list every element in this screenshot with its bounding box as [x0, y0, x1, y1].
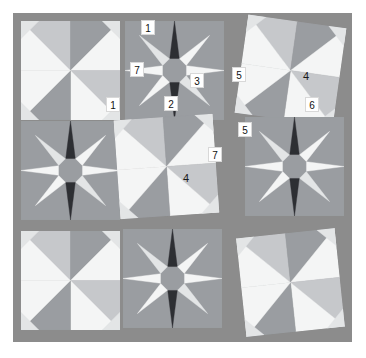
annotation-badge-7: 7: [130, 62, 144, 77]
quilt-block-r2c2: [114, 114, 220, 220]
quilt-block-r3c1: [21, 231, 120, 330]
annotation-badge-6: 6: [305, 97, 319, 112]
annotation-badge-4: 4: [299, 69, 313, 84]
annotation-badge-1: 1: [141, 20, 155, 35]
quilt-block-r3c3: [236, 228, 345, 337]
quilt-block-r1c3: [235, 15, 347, 127]
quilt-block-r2c3: [245, 117, 344, 216]
annotation-badge-4: 4: [179, 171, 193, 186]
annotation-badge-3: 3: [190, 73, 204, 88]
annotation-badge-5: 5: [232, 67, 246, 82]
annotation-badge-1: 1: [106, 97, 120, 112]
quilt-block-r2c1: [21, 121, 120, 220]
quilt-block-r3c2: [123, 229, 222, 328]
screenshot-root: 17354126574: [0, 0, 366, 358]
annotation-badge-5: 5: [238, 122, 252, 137]
annotation-badge-2: 2: [164, 96, 178, 111]
annotation-badge-7: 7: [208, 147, 222, 162]
